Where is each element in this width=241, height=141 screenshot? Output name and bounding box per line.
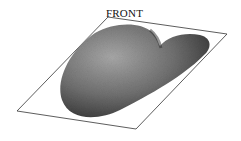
heart-surface [60, 25, 209, 118]
front-label: FRONT [106, 7, 143, 19]
diagram: FRONT [0, 0, 241, 141]
surface-diagram [0, 0, 241, 141]
